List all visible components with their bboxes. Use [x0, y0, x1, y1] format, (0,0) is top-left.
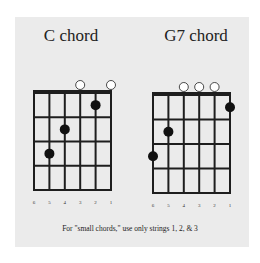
finger-dot: [225, 102, 235, 112]
g7-chord-fretboard: [148, 83, 235, 194]
string-number-label: 4: [183, 203, 186, 208]
string-number-label: 1: [110, 200, 113, 205]
open-string-marker: [210, 83, 219, 92]
c-chord-fretboard: [33, 81, 116, 191]
string-number-label: 5: [167, 203, 170, 208]
string-number-label: 2: [213, 203, 216, 208]
string-number-label: 6: [33, 200, 36, 205]
open-string-marker: [195, 83, 204, 92]
open-string-marker: [76, 81, 85, 90]
nut: [33, 90, 112, 94]
string-number-label: 2: [94, 200, 97, 205]
nut: [152, 92, 231, 96]
string-number-label: 6: [152, 203, 155, 208]
finger-dot: [148, 151, 158, 161]
finger-dot: [44, 149, 54, 159]
footnote: For "small chords," use only strings 1, …: [0, 224, 260, 233]
open-string-marker: [179, 83, 188, 92]
finger-dot: [60, 124, 70, 134]
string-number-label: 3: [198, 203, 201, 208]
finger-dot: [91, 100, 101, 110]
finger-dot: [163, 127, 173, 137]
string-number-label: 3: [79, 200, 82, 205]
string-number-label: 5: [48, 200, 51, 205]
string-number-label: 4: [64, 200, 67, 205]
string-number-label: 1: [229, 203, 232, 208]
open-string-marker: [107, 81, 116, 90]
